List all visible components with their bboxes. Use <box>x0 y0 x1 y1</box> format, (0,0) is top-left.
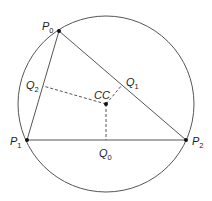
circumcircle-diagram: P0 P1 P2 CC Q0 Q1 Q2 <box>0 0 212 201</box>
point-cc <box>104 102 108 106</box>
edge-p0-p2 <box>59 31 186 140</box>
label-q2: Q2 <box>26 79 39 94</box>
label-cc: CC <box>94 89 110 101</box>
label-p0: P0 <box>42 20 54 35</box>
label-q1: Q1 <box>126 76 139 91</box>
label-p2: P2 <box>192 135 204 150</box>
label-q0: Q0 <box>99 147 112 162</box>
point-p0 <box>57 29 61 33</box>
point-p2 <box>184 138 188 142</box>
point-p1 <box>25 138 29 142</box>
label-p1: P1 <box>10 135 22 150</box>
